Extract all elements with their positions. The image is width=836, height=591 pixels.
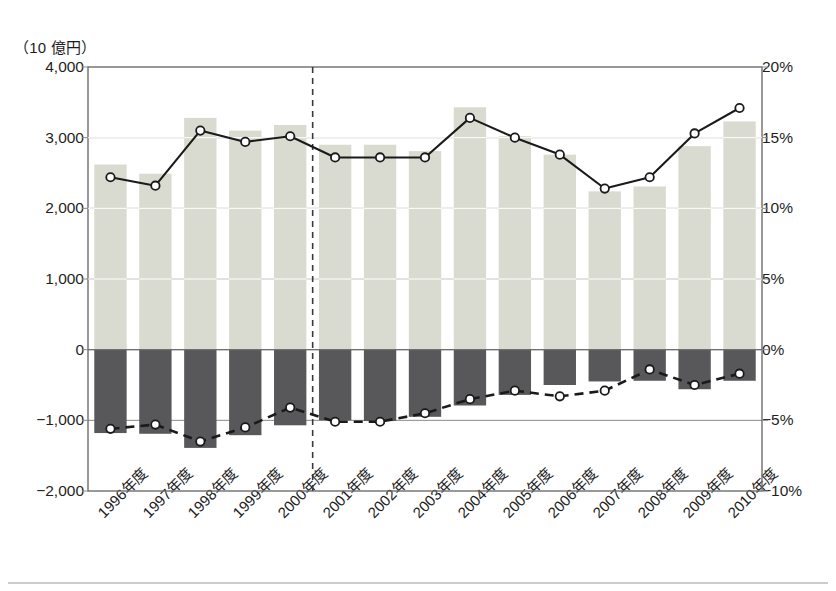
bar-positive bbox=[723, 121, 755, 349]
lower-ratio-line-marker bbox=[331, 418, 339, 426]
upper-ratio-line-marker bbox=[331, 153, 339, 161]
bar-negative bbox=[319, 350, 351, 421]
bar-positive bbox=[229, 131, 261, 350]
upper-ratio-line-marker bbox=[511, 133, 519, 141]
plot-area bbox=[0, 0, 836, 591]
lower-ratio-line-marker bbox=[376, 418, 384, 426]
upper-ratio-line-marker bbox=[106, 173, 114, 181]
bar-negative bbox=[409, 350, 441, 417]
bar-negative bbox=[364, 350, 396, 421]
bar-negative bbox=[184, 350, 216, 448]
bar-negative bbox=[274, 350, 306, 426]
bar-positive bbox=[319, 145, 351, 350]
lower-ratio-line-marker bbox=[241, 423, 249, 431]
upper-ratio-line-marker bbox=[556, 150, 564, 158]
bar-negative bbox=[544, 350, 576, 385]
upper-ratio-line-marker bbox=[196, 126, 204, 134]
lower-ratio-line-marker bbox=[106, 425, 114, 433]
upper-ratio-line-marker bbox=[376, 153, 384, 161]
bar-positive bbox=[184, 118, 216, 350]
lower-ratio-line-marker bbox=[151, 420, 159, 428]
upper-ratio-line-marker bbox=[421, 153, 429, 161]
bar-positive bbox=[589, 191, 621, 349]
lower-ratio-line-marker bbox=[286, 403, 294, 411]
upper-ratio-line-marker bbox=[466, 114, 474, 122]
lower-ratio-line-marker bbox=[645, 365, 653, 373]
upper-ratio-line-marker bbox=[286, 132, 294, 140]
lower-ratio-line-marker bbox=[690, 381, 698, 389]
upper-ratio-line-marker bbox=[735, 104, 743, 112]
bar-positive bbox=[633, 186, 665, 349]
bar-negative bbox=[589, 350, 621, 382]
lower-ratio-line-marker bbox=[196, 437, 204, 445]
chart-container: （10 億円） 4,0003,0002,0001,0000−1,000−2,00… bbox=[0, 0, 836, 591]
bar-positive bbox=[499, 136, 531, 349]
bar-positive bbox=[409, 151, 441, 350]
lower-ratio-line-marker bbox=[421, 409, 429, 417]
bar-positive bbox=[274, 125, 306, 350]
lower-ratio-line-marker bbox=[735, 369, 743, 377]
upper-ratio-line-marker bbox=[645, 173, 653, 181]
bar-negative bbox=[94, 350, 126, 433]
lower-ratio-line-marker bbox=[556, 392, 564, 400]
upper-ratio-line-marker bbox=[241, 138, 249, 146]
bar-positive bbox=[94, 165, 126, 350]
upper-ratio-line-marker bbox=[151, 182, 159, 190]
bar-positive bbox=[364, 145, 396, 350]
bar-positive bbox=[139, 174, 171, 350]
lower-ratio-line-marker bbox=[466, 395, 474, 403]
lower-ratio-line-marker bbox=[601, 386, 609, 394]
bar-positive bbox=[454, 107, 486, 349]
bar-positive bbox=[678, 146, 710, 350]
bar-positive bbox=[544, 155, 576, 350]
lower-ratio-line-marker bbox=[511, 386, 519, 394]
upper-ratio-line-marker bbox=[601, 184, 609, 192]
upper-ratio-line-marker bbox=[690, 129, 698, 137]
